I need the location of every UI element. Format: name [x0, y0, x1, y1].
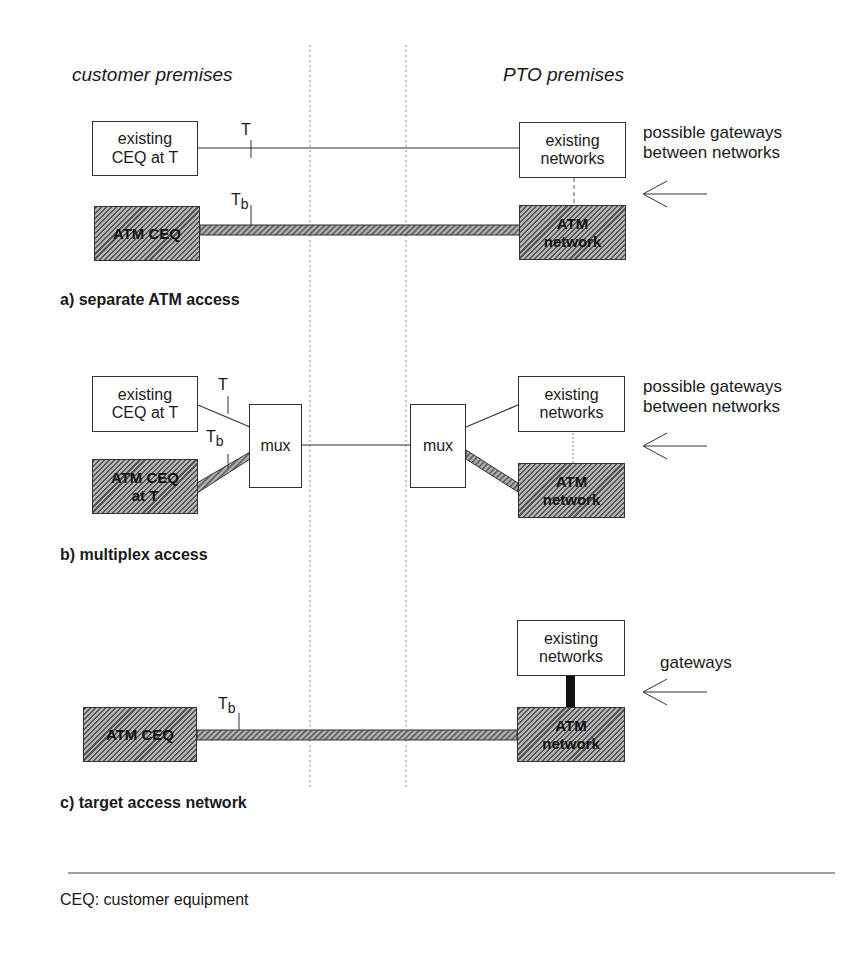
tb-reference-point-a: Tb: [231, 191, 249, 212]
atm-ceq-box-c: ATM CEQ: [83, 707, 197, 762]
atm-ceq-box-a: ATM CEQ: [94, 206, 200, 261]
caption-b: b) multiplex access: [60, 546, 208, 564]
caption-a: a) separate ATM access: [60, 291, 240, 309]
existing-networks-box-b: existing networks: [518, 376, 625, 432]
mux-left: mux: [249, 404, 302, 488]
existing-ceq-box-b: existing CEQ at T: [92, 376, 198, 432]
existing-networks-box-a: existing networks: [519, 122, 626, 178]
t-reference-point-b: T: [218, 376, 228, 394]
atm-network-box-a: ATM network: [519, 205, 626, 260]
customer-premises-header: customer premises: [72, 64, 233, 86]
atm-network-box-c: ATM network: [517, 707, 625, 762]
tb-reference-point-b: Tb: [206, 428, 224, 449]
atm-ceq-box-b: ATM CEQ at T: [92, 459, 198, 514]
existing-ceq-box-a: existing CEQ at T: [92, 121, 198, 176]
mux-right: mux: [410, 404, 466, 488]
caption-c: c) target access network: [60, 794, 247, 812]
gateway-note-c: gateways: [660, 653, 732, 673]
pto-premises-header: PTO premises: [503, 64, 624, 86]
gateway-note-a: possible gateways between networks: [643, 123, 782, 162]
existing-networks-box-c: existing networks: [517, 620, 625, 676]
gateway-note-b: possible gateways between networks: [643, 377, 782, 416]
t-reference-point-a: T: [241, 121, 251, 139]
tb-reference-point-c: Tb: [218, 695, 236, 716]
atm-network-box-b: ATM network: [518, 463, 625, 518]
footnote: CEQ: customer equipment: [60, 891, 249, 909]
